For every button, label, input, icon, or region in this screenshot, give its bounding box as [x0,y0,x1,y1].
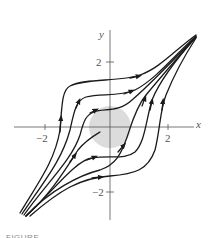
phase-portrait-figure: y x 2 −2 −2 2 FIGURE ... [0,0,214,238]
x-tick-label-neg2: −2 [36,133,48,144]
x-tick-label-2: 2 [165,133,171,144]
y-tick-label-neg2: −2 [92,187,104,198]
figure-caption: FIGURE ... [6,233,214,238]
x-axis-label: x [196,119,201,130]
phase-portrait-plot [0,0,214,238]
y-axis-label: y [99,29,104,40]
y-tick-label-2: 2 [96,57,102,68]
